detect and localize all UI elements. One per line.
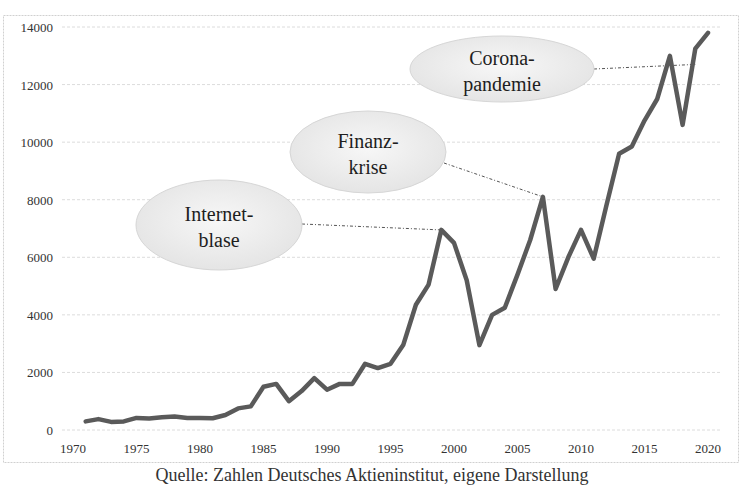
annotation-label-line2: blase: [198, 229, 239, 251]
annotation-label-line1: Internet-: [185, 203, 254, 225]
y-tick-label: 8000: [27, 193, 53, 208]
x-tick-label: 1970: [60, 441, 86, 456]
annotation-bubble: Corona-pandemie: [410, 36, 594, 102]
chart-frame: [4, 16, 739, 463]
x-tick-label: 2020: [695, 441, 721, 456]
y-tick-label: 10000: [21, 135, 54, 150]
annotation-label-line1: Corona-: [469, 47, 535, 69]
annotation-label-line2: pandemie: [463, 73, 541, 96]
y-tick-label: 14000: [21, 20, 54, 35]
y-tick-label: 2000: [27, 365, 53, 380]
y-tick-label: 6000: [27, 250, 53, 265]
x-tick-label: 1980: [187, 441, 213, 456]
x-tick-label: 1975: [124, 441, 150, 456]
x-tick-label: 2010: [568, 441, 594, 456]
x-tick-label: 2015: [632, 441, 658, 456]
y-tick-label: 12000: [21, 78, 54, 93]
y-tick-label: 0: [47, 423, 54, 438]
y-tick-label: 4000: [27, 308, 53, 323]
annotation-label-line1: Finanz-: [337, 130, 398, 152]
annotation-bubble: Finanz-krise: [290, 111, 446, 193]
x-tick-label: 1995: [378, 441, 404, 456]
annotation-bubble: Internet-blase: [136, 180, 302, 270]
annotation-label-line2: krise: [349, 156, 388, 178]
x-tick-label: 2000: [441, 441, 467, 456]
annotation-ellipse: [290, 111, 446, 193]
annotation-ellipse: [136, 180, 302, 270]
x-tick-label: 2005: [505, 441, 531, 456]
x-tick-label: 1985: [251, 441, 277, 456]
source-caption: Quelle: Zahlen Deutsches Aktieninstitut,…: [0, 464, 744, 486]
x-tick-label: 1990: [314, 441, 340, 456]
